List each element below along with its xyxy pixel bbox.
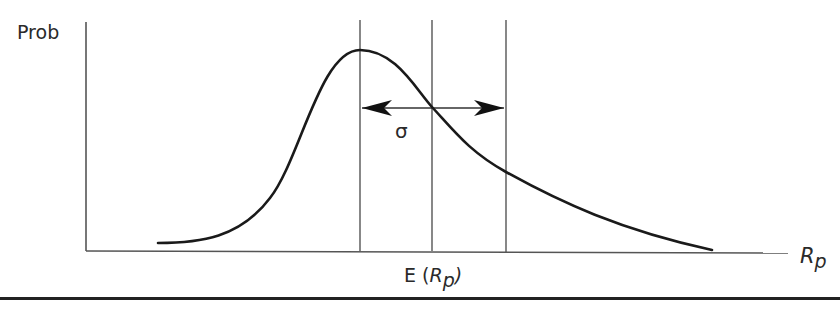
mean-label-sub: p xyxy=(443,269,455,291)
x-axis-label-sub: p xyxy=(815,250,827,272)
mean-label-var: R xyxy=(429,264,442,286)
x-axis xyxy=(86,251,788,253)
x-axis-label: Rp xyxy=(800,244,827,268)
mean-label: E (Rp) xyxy=(404,264,462,286)
mean-label-suffix: ) xyxy=(455,264,462,286)
sigma-label: σ xyxy=(395,119,408,143)
bottom-rule xyxy=(0,297,840,300)
x-axis-label-main: R xyxy=(800,244,815,268)
mean-label-prefix: E ( xyxy=(404,264,429,286)
y-axis-label: Prob xyxy=(17,21,59,43)
distribution-curve xyxy=(158,50,712,250)
